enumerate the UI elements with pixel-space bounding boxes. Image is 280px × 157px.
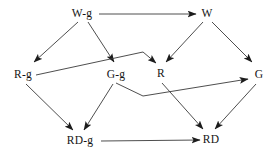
edge-gg-to-g: [116, 79, 248, 96]
graph-diagram: W-g W R-g G-g R G RD-g RD: [0, 0, 280, 157]
edge-w-to-g: [212, 22, 252, 62]
node-g-g: G-g: [107, 69, 126, 81]
node-g: G: [255, 69, 264, 81]
node-w-g: W-g: [72, 8, 92, 20]
edge-wg-to-gg: [88, 22, 114, 62]
node-w: W: [201, 8, 212, 20]
edge-g-to-rd: [215, 84, 256, 129]
node-rd-g: RD-g: [67, 135, 93, 147]
node-r: R: [157, 68, 165, 80]
edge-rg-to-rdg: [26, 84, 73, 130]
node-rd: RD: [203, 134, 219, 146]
node-r-g: R-g: [14, 69, 32, 81]
edge-gg-to-rdg: [84, 84, 113, 130]
edge-rdg-to-rd: [101, 140, 200, 141]
graph-edges-canvas: [0, 0, 280, 157]
edge-w-to-r: [166, 22, 203, 62]
edge-wg-to-rg: [34, 22, 78, 62]
edge-rg-to-r: [36, 52, 156, 75]
